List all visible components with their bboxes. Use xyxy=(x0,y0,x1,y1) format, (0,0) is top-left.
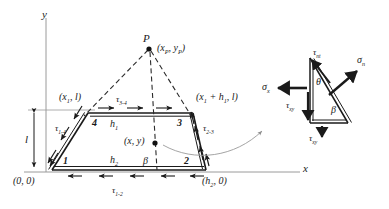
tau-xy-h-subscript: xy xyxy=(312,139,317,145)
coordinate-bottom-right: (h2, 0) xyxy=(202,176,227,188)
apex-label-P: P xyxy=(143,33,150,44)
tau-1-4-subscript: 1-4 xyxy=(58,129,65,135)
arrow-tau-nt xyxy=(312,60,330,83)
node-label-3: 3 xyxy=(177,118,182,128)
stress-label-sigma-n: σn xyxy=(357,55,365,67)
coordinate-top-left: (x1, l) xyxy=(59,92,81,104)
trapezoid-angle-beta: β xyxy=(143,156,148,166)
coordinate-top-right: (x1 + h1, l) xyxy=(196,92,238,104)
stress-label-tau-xy-vertical: τxy xyxy=(286,101,294,112)
tau-nt-subscript: nt xyxy=(316,53,320,59)
tau-xy-v-subscript: xy xyxy=(289,106,294,112)
figure-canvas: y x (0, 0) l 1 2 3 4 h1 h2 β τ1-4 τ3-4 τ… xyxy=(0,0,389,209)
traction-label-1-4: τ1-4 xyxy=(55,124,66,135)
dimension-label-h1: h1 xyxy=(110,119,118,131)
stress-angle-theta: θ xyxy=(316,77,321,87)
stress-label-tau-nt: τnt xyxy=(313,48,321,59)
coordinate-origin: (0, 0) xyxy=(13,176,35,186)
interior-point-marker xyxy=(152,140,157,145)
tau-1-2-subscript: 1-2 xyxy=(115,191,122,197)
traction-label-1-2: τ1-2 xyxy=(112,186,123,197)
stress-label-tau-xy-horizontal: τxy xyxy=(309,134,317,145)
arrow-sigma-n xyxy=(329,71,357,95)
dimension-label-l: l xyxy=(25,134,28,145)
traction-label-3-4: τ3-4 xyxy=(116,95,127,106)
node-label-4: 4 xyxy=(92,118,97,128)
axis-label-x: x xyxy=(303,163,308,174)
sigma-n-subscript: n xyxy=(362,60,365,67)
stress-angle-beta: β xyxy=(331,105,336,115)
coordinate-interior-point: (x, y) xyxy=(124,136,145,146)
axis-label-y: y xyxy=(42,9,47,20)
apex-coordinates: (xP, yP) xyxy=(157,43,185,55)
sigma-x-subscript: x xyxy=(267,87,270,94)
tau-2-3-subscript: 2-3 xyxy=(206,129,213,135)
h2-subscript: 2 xyxy=(115,160,118,167)
apex-point-marker xyxy=(146,46,151,51)
node-label-2: 2 xyxy=(184,156,189,166)
node-label-1: 1 xyxy=(63,156,68,166)
traction-label-2-3: τ2-3 xyxy=(203,124,214,135)
stress-label-sigma-x: σx xyxy=(262,82,270,94)
tau-3-4-subscript: 3-4 xyxy=(119,100,126,106)
dimension-label-h2: h2 xyxy=(110,155,118,167)
h1-subscript: 1 xyxy=(115,124,118,131)
